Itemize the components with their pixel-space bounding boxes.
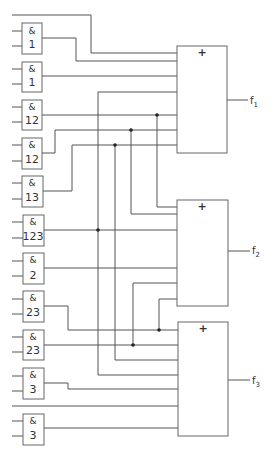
and-gate-2: & 1 [12, 62, 42, 92]
or-op-label: + [198, 322, 207, 335]
gate-term-label: 13 [25, 191, 39, 204]
or-gate-f3: + f3 [178, 322, 260, 436]
and-op-label: & [29, 332, 36, 342]
and-op-label: & [29, 293, 36, 303]
output-label-f1: f1 [250, 95, 258, 109]
and-gate-4: & 12 [12, 138, 42, 169]
and-op-label: & [28, 178, 35, 188]
gate-term-label: 3 [30, 429, 37, 442]
gate-term-label: 12 [25, 153, 39, 166]
and-gate-8: & 23 [12, 291, 44, 322]
and-gate-7: & 2 [12, 253, 44, 284]
and-op-label: & [29, 416, 36, 426]
and-gate-5: & 13 [12, 176, 43, 207]
and-gate-9: & 23 [12, 330, 44, 360]
and-op-label: & [29, 370, 36, 380]
and-gate-1: & 1 [12, 23, 42, 54]
output-label-f2: f2 [252, 245, 260, 259]
and-op-label: & [28, 64, 35, 74]
logic-circuit-diagram: & 1 & 1 & 12 & 12 & 13 & 123 & 2 [0, 0, 273, 455]
and-gate-6: & 123 [12, 215, 44, 246]
or-op-label: + [197, 200, 206, 213]
and-gate-10: & 3 [12, 368, 44, 399]
and-op-label: & [29, 217, 36, 227]
and-op-label: & [28, 140, 35, 150]
gate-term-label: 2 [30, 269, 37, 282]
gate-term-label: 123 [23, 230, 44, 243]
gate-term-label: 3 [30, 383, 37, 396]
gate-term-label: 1 [29, 38, 36, 51]
and-op-label: & [28, 26, 35, 36]
and-gate-3: & 12 [12, 100, 42, 130]
gate-term-label: 12 [25, 114, 39, 127]
and-op-label: & [29, 255, 36, 265]
gate-term-label: 23 [26, 306, 40, 319]
output-label-f3: f3 [252, 375, 260, 389]
and-op-label: & [28, 102, 35, 112]
and-gate-11: & 3 [12, 414, 44, 445]
or-op-label: + [197, 46, 206, 59]
or-gate-f2: + f2 [177, 200, 260, 306]
gate-term-label: 1 [29, 76, 36, 89]
gate-term-label: 23 [26, 344, 40, 357]
